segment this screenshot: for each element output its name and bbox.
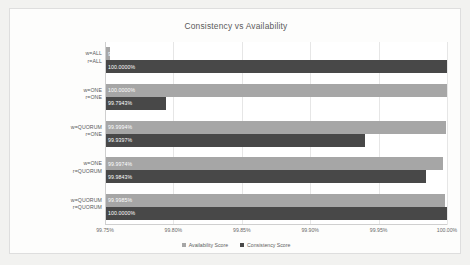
category-label-line2: r=QUORUM xyxy=(14,204,102,212)
bar-value-label: 99.9974% xyxy=(108,161,132,167)
bar-value-label: 99.9985% xyxy=(108,197,132,203)
x-axis-line xyxy=(105,224,447,225)
chart-card: Consistency vs Availability w=ALLr=ALLw=… xyxy=(9,8,461,254)
category-label: w=ONEr=ONE xyxy=(14,87,102,102)
bar-group: 99.7539%100.0000% xyxy=(105,47,447,73)
legend-label: Availability Score xyxy=(189,242,228,248)
bar-value-label: 99.7943% xyxy=(108,100,132,106)
bar-value-label: 99.9397% xyxy=(108,137,132,143)
bar-availability: 99.9994% xyxy=(105,121,446,134)
category-label-line1: w=ALL xyxy=(14,50,102,58)
bar-value-label: 100.0000% xyxy=(108,64,135,70)
category-label: w=QUORUMr=ONE xyxy=(14,124,102,139)
y-axis-line xyxy=(105,42,106,225)
x-tick-label: 99.80% xyxy=(165,227,183,233)
bar-value-label: 99.7539% xyxy=(108,51,132,57)
legend-item[interactable]: Availability Score xyxy=(182,242,228,248)
bar-availability: 100.0000% xyxy=(105,84,447,97)
category-label-line2: r=ONE xyxy=(14,94,102,102)
bar-consistency: 99.9843% xyxy=(105,170,426,183)
category-label-line2: r=ONE xyxy=(14,131,102,139)
plot-area: 99.7539%100.0000%100.0000%99.7943%99.999… xyxy=(105,42,447,225)
category-label-line1: w=ONE xyxy=(14,160,102,168)
bar-consistency: 99.7943% xyxy=(105,97,166,110)
x-tick-label: 99.95% xyxy=(370,227,388,233)
category-label: w=ONEr=QUORUM xyxy=(14,160,102,175)
x-axis-tick-labels: 99.75%99.80%99.85%99.90%99.95%100.00% xyxy=(105,227,447,239)
x-tick-label: 99.90% xyxy=(301,227,319,233)
category-label-line1: w=ONE xyxy=(14,87,102,95)
category-axis-labels: w=ALLr=ALLw=ONEr=ONEw=QUORUMr=ONEw=ONEr=… xyxy=(10,42,102,225)
bar-value-label: 100.0000% xyxy=(108,210,135,216)
bar-consistency: 100.0000% xyxy=(105,207,447,220)
chart-legend: Availability ScoreConsistency Score xyxy=(10,242,462,248)
bar-value-label: 100.0000% xyxy=(108,87,135,93)
legend-swatch-icon xyxy=(240,243,244,247)
x-tick-label: 99.75% xyxy=(96,227,114,233)
bar-consistency: 99.9397% xyxy=(105,134,365,147)
bar-value-label: 99.9994% xyxy=(108,124,132,130)
x-tick-label: 100.00% xyxy=(437,227,457,233)
category-label-line2: r=QUORUM xyxy=(14,168,102,176)
bar-availability: 99.9985% xyxy=(105,194,445,207)
chart-title: Consistency vs Availability xyxy=(10,21,462,31)
x-tick-label: 99.85% xyxy=(233,227,251,233)
bar-group: 99.9985%100.0000% xyxy=(105,194,447,220)
screenshot-root: Consistency vs Availability w=ALLr=ALLw=… xyxy=(0,0,470,265)
bar-value-label: 99.9843% xyxy=(108,174,132,180)
category-label: w=QUORUMr=QUORUM xyxy=(14,197,102,212)
category-label-line1: w=QUORUM xyxy=(14,197,102,205)
gridline xyxy=(447,42,448,225)
category-label-line1: w=QUORUM xyxy=(14,124,102,132)
legend-item[interactable]: Consistency Score xyxy=(240,242,290,248)
bar-group: 99.9994%99.9397% xyxy=(105,121,447,147)
bar-group: 100.0000%99.7943% xyxy=(105,84,447,110)
bar-availability: 99.9974% xyxy=(105,157,443,170)
category-label: w=ALLr=ALL xyxy=(14,50,102,65)
bar-group: 99.9974%99.9843% xyxy=(105,157,447,183)
category-label-line2: r=ALL xyxy=(14,58,102,66)
legend-swatch-icon xyxy=(182,243,186,247)
legend-label: Consistency Score xyxy=(247,242,290,248)
bar-consistency: 100.0000% xyxy=(105,60,447,73)
